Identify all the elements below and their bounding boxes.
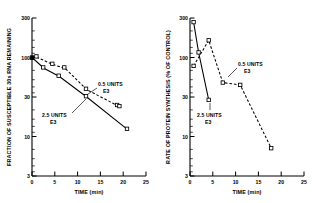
annotation-line-1: 2.5 UNITS [42, 112, 67, 118]
x-tick-label: 15 [98, 179, 104, 185]
x-tick-label: 0 [31, 179, 34, 185]
annotation-05-units-right: 0.5 UNITS E3 [228, 61, 263, 77]
x-tick-label: 5 [211, 179, 214, 185]
y-tick-label: 300 [21, 15, 30, 21]
annotation-line-1: 0.5 UNITS [98, 81, 123, 87]
annotation-line-2: E3 [103, 88, 109, 94]
x-axis-tick-labels-left: 0 5 10 15 20 25 [31, 179, 149, 185]
x-axis-title: TIME (min) [74, 189, 103, 195]
annotation-line-2: E3 [244, 68, 250, 74]
y-axis-tick-labels-right: 300 100 30 10 3 [179, 15, 188, 179]
y-axis-ticks-left [32, 18, 37, 176]
x-tick-label: 0 [189, 179, 192, 185]
chart-panel-left: 300 100 30 10 3 0 5 10 15 20 25 [0, 0, 160, 203]
annotation-line-2: E3 [205, 119, 211, 125]
annotation-line-1: 2.5 UNITS [197, 112, 222, 118]
x-tick-label: 25 [301, 179, 307, 185]
y-axis-title: FRACTION OF SUSCEPTIBLE 30s RNA REMAININ… [6, 28, 12, 166]
x-axis-ticks-right [190, 172, 304, 177]
y-tick-label: 30 [24, 94, 30, 100]
annotation-25-units-right: 2.5 UNITS E3 [197, 103, 222, 125]
annotation-25-units-left: 2.5 UNITS E3 [42, 99, 86, 125]
x-axis-ticks-left [32, 172, 146, 177]
plot-frame-left [32, 18, 146, 176]
annotation-05-units-left: 0.5 UNITS E3 [88, 81, 123, 94]
y-tick-label: 10 [182, 134, 188, 140]
x-tick-label: 10 [233, 179, 239, 185]
x-tick-label: 10 [75, 179, 81, 185]
y-axis-ticks-right [190, 18, 195, 176]
x-axis-tick-labels-right: 0 5 10 15 20 25 [189, 179, 307, 185]
series-25-units-left [30, 56, 128, 131]
y-tick-label: 10 [24, 134, 30, 140]
chart-svg-right: 300 100 30 10 3 0 5 10 15 20 25 [160, 0, 320, 203]
annotation-line-1: 0.5 UNITS [238, 61, 263, 67]
y-tick-label: 300 [179, 15, 188, 21]
series-25-units-right [192, 20, 211, 101]
x-tick-label: 15 [256, 179, 262, 185]
y-tick-label: 30 [182, 94, 188, 100]
x-tick-label: 5 [53, 179, 56, 185]
y-tick-label: 100 [21, 55, 30, 61]
series-05-units-right [192, 39, 273, 150]
y-axis-title: RATE OF PROTEIN SYNTHESIS (% OF CONTROL) [165, 30, 171, 164]
y-tick-label: 100 [179, 55, 188, 61]
figure-container: 300 100 30 10 3 0 5 10 15 20 25 [0, 0, 320, 203]
chart-svg-left: 300 100 30 10 3 0 5 10 15 20 25 [0, 0, 160, 203]
chart-panel-right: 300 100 30 10 3 0 5 10 15 20 25 [160, 0, 320, 203]
annotation-line-2: E3 [50, 119, 56, 125]
x-axis-title: TIME (min) [232, 189, 261, 195]
x-tick-label: 20 [120, 179, 126, 185]
y-axis-tick-labels-left: 300 100 30 10 3 [21, 15, 30, 179]
x-tick-label: 25 [143, 179, 149, 185]
x-tick-label: 20 [278, 179, 284, 185]
